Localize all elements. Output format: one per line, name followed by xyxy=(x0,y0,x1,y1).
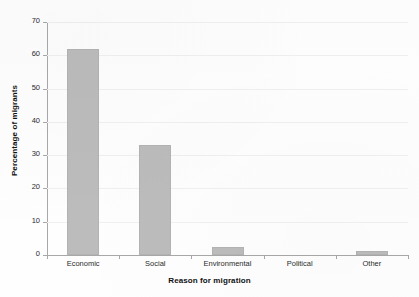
y-tick-label-wrap: 0 xyxy=(0,250,40,260)
x-tick-mark xyxy=(47,255,48,259)
y-tick-label-wrap: 10 xyxy=(0,217,40,227)
x-tick-mark xyxy=(336,255,337,259)
bar-chart-figure: Percentage of migrants 010203040506070 E… xyxy=(0,0,419,297)
bar xyxy=(356,251,388,255)
gridline xyxy=(47,222,408,223)
x-tick-mark xyxy=(191,255,192,259)
x-category-label: Political xyxy=(264,260,336,268)
y-tick-label-wrap: 70 xyxy=(0,17,40,27)
x-category-label: Other xyxy=(336,260,408,268)
y-tick-label-wrap: 30 xyxy=(0,150,40,160)
y-tick-label-wrap: 40 xyxy=(0,117,40,127)
y-tick-label: 20 xyxy=(32,183,40,191)
x-tick-mark xyxy=(264,255,265,259)
y-tick-label: 10 xyxy=(32,217,40,225)
y-tick-label-wrap: 20 xyxy=(0,183,40,193)
y-tick-label: 0 xyxy=(36,250,40,258)
x-axis-title: Reason for migration xyxy=(0,276,419,285)
x-tick-mark xyxy=(408,255,409,259)
y-tick-label: 60 xyxy=(32,50,40,58)
x-category-label: Social xyxy=(119,260,191,268)
bar xyxy=(212,247,244,255)
y-axis-title-label: Percentage of migrants xyxy=(11,84,20,175)
y-tick-label: 70 xyxy=(32,17,40,25)
gridline xyxy=(47,188,408,189)
gridline xyxy=(47,89,408,90)
gridline xyxy=(47,155,408,156)
bar xyxy=(139,145,171,255)
y-tick-label: 30 xyxy=(32,150,40,158)
y-tick-label-wrap: 50 xyxy=(0,84,40,94)
bar xyxy=(67,49,99,255)
x-category-label: Economic xyxy=(47,260,119,268)
x-axis-line xyxy=(47,255,408,256)
y-tick-label: 40 xyxy=(32,117,40,125)
plot-area xyxy=(47,22,408,255)
y-tick-label-wrap: 60 xyxy=(0,50,40,60)
gridline xyxy=(47,122,408,123)
x-tick-mark xyxy=(119,255,120,259)
gridline xyxy=(47,22,408,23)
x-category-label: Environmental xyxy=(191,260,263,268)
y-tick-label: 50 xyxy=(32,84,40,92)
gridline xyxy=(47,55,408,56)
x-axis-title-label: Reason for migration xyxy=(168,276,250,285)
